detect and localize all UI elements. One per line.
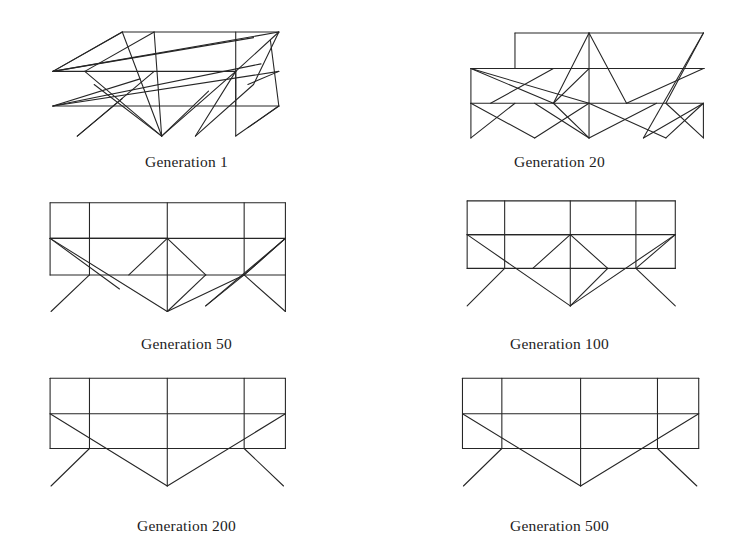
figure-root: Generation 1Generation 20Generation 50Ge… xyxy=(0,0,746,547)
truss-member xyxy=(162,71,236,136)
truss-member xyxy=(533,235,571,269)
truss-member xyxy=(244,449,283,487)
truss-members xyxy=(467,201,675,306)
truss-member xyxy=(467,235,570,306)
truss-member xyxy=(589,103,666,138)
truss-member xyxy=(51,275,89,312)
truss-member xyxy=(162,91,209,136)
truss-members xyxy=(471,33,704,138)
truss-member xyxy=(553,103,589,138)
truss-member xyxy=(50,238,119,289)
panel-caption-generation-1: Generation 1 xyxy=(0,153,373,171)
truss-member xyxy=(53,71,279,106)
truss-member xyxy=(636,268,675,306)
truss-member xyxy=(627,69,704,104)
truss-diagram-generation-50 xyxy=(0,184,373,334)
truss-member xyxy=(471,103,515,138)
truss-members xyxy=(50,378,285,486)
truss-member xyxy=(195,85,253,137)
truss-member xyxy=(657,449,696,487)
truss-member xyxy=(570,235,675,306)
panel-generation-20: Generation 20 xyxy=(373,2,746,184)
panel-caption-generation-20: Generation 20 xyxy=(373,153,746,171)
truss-member xyxy=(85,32,154,71)
truss-member xyxy=(129,238,167,275)
truss-member xyxy=(244,238,285,275)
truss-member xyxy=(462,414,580,486)
truss-diagram-generation-1 xyxy=(0,2,373,152)
truss-members xyxy=(53,32,279,136)
panel-generation-100: Generation 100 xyxy=(373,184,746,366)
panel-generation-500: Generation 500 xyxy=(373,366,746,547)
truss-member xyxy=(643,103,703,138)
truss-diagram-generation-20 xyxy=(373,2,746,152)
panel-generation-1: Generation 1 xyxy=(0,2,373,184)
truss-member xyxy=(248,106,279,128)
truss-member xyxy=(636,235,675,269)
truss-member xyxy=(491,69,554,104)
panel-caption-generation-100: Generation 100 xyxy=(373,335,746,353)
panel-generation-200: Generation 200 xyxy=(0,366,373,547)
truss-member xyxy=(53,79,140,106)
truss-member xyxy=(77,99,122,137)
truss-member xyxy=(167,414,285,486)
truss-member xyxy=(167,275,205,312)
truss-members xyxy=(462,378,698,486)
truss-diagram-generation-500 xyxy=(373,366,746,516)
truss-member xyxy=(244,275,285,312)
truss-member xyxy=(643,33,703,138)
panel-caption-generation-50: Generation 50 xyxy=(0,335,373,353)
panel-caption-generation-200: Generation 200 xyxy=(0,517,373,535)
truss-member xyxy=(471,103,535,138)
truss-member xyxy=(85,71,162,136)
truss-diagram-generation-100 xyxy=(373,184,746,334)
truss-member xyxy=(471,69,554,104)
truss-member xyxy=(570,235,608,269)
truss-member xyxy=(570,268,608,306)
truss-member xyxy=(463,449,501,487)
truss-member xyxy=(581,414,699,486)
panel-caption-generation-500: Generation 500 xyxy=(373,517,746,535)
truss-member xyxy=(270,40,278,106)
truss-member xyxy=(50,414,167,486)
truss-member xyxy=(167,238,205,275)
truss-diagram-generation-200 xyxy=(0,366,373,516)
panel-generation-50: Generation 50 xyxy=(0,184,373,366)
truss-member xyxy=(51,449,89,487)
truss-members xyxy=(50,203,285,312)
truss-member xyxy=(467,268,505,306)
